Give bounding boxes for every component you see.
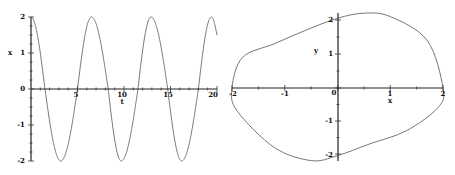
x-tick-label: 2: [441, 89, 446, 98]
x-tick-label: 0: [332, 88, 337, 97]
x-tick-label: 0: [20, 84, 25, 93]
phase-portrait-plot: -2 -1 0 1 2 x 2 1 -1 -2 y: [229, 13, 445, 161]
t-tick-label: 5: [74, 90, 79, 99]
x-axis-label: x: [8, 48, 13, 57]
x-tick-label: -2: [229, 89, 237, 98]
x-tick-label: -1: [17, 120, 25, 129]
t-tick-label: 15: [163, 90, 173, 99]
t-tick-label: 20: [208, 90, 218, 99]
figure: 5 10 15 20 t 2 1 0 -1 -2 x -2 -1 0 1 2 x…: [0, 0, 455, 175]
y-tick-label: 2: [328, 15, 333, 24]
x-tick-label: -2: [17, 156, 25, 165]
y-tick-label: 1: [328, 49, 333, 58]
y-tick-label: -2: [325, 150, 333, 159]
x-tick-label: -1: [281, 89, 289, 98]
x-tick-label: 1: [20, 48, 25, 57]
y-axis-label: y: [313, 46, 319, 55]
y-tick-label: -1: [325, 116, 333, 125]
time-series-plot: 5 10 15 20 t 2 1 0 -1 -2 x: [8, 12, 218, 165]
x-tick-label: 2: [20, 12, 25, 21]
